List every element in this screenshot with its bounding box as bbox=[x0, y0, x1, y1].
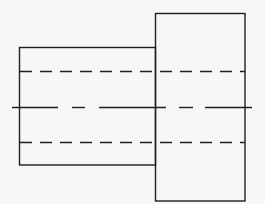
small-diameter-step-outline bbox=[20, 48, 156, 166]
technical-drawing bbox=[0, 0, 265, 204]
drawing-svg bbox=[0, 0, 265, 204]
